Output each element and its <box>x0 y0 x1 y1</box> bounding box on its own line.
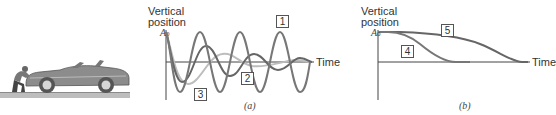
panel-b-origin-label: A0 <box>371 27 381 38</box>
panel-b-x-label: Time <box>532 57 556 68</box>
panel-a-x-label: Time <box>316 57 340 68</box>
panel-a-caption: (a) <box>244 100 256 111</box>
panel-b-caption: (b) <box>459 100 471 111</box>
curve-2-label: 2 <box>241 72 254 85</box>
curve-3-label: 3 <box>194 88 207 101</box>
curve-5-label: 5 <box>441 24 454 37</box>
curve-1-label: 1 <box>276 15 289 28</box>
curve-4-label: 4 <box>401 45 414 58</box>
